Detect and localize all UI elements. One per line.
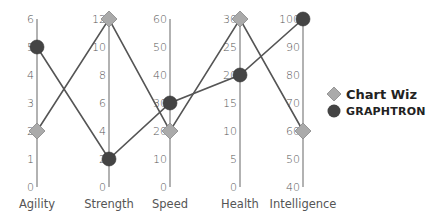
tick-label: 80	[286, 69, 300, 82]
tick-label: 0	[27, 181, 34, 194]
tick-label: 40	[153, 69, 167, 82]
tick-label: 4	[27, 69, 34, 82]
axis-label-speed: Speed	[152, 197, 188, 211]
tick-label: 5	[230, 153, 237, 166]
tick-label: 0	[99, 181, 106, 194]
circle-marker	[30, 40, 44, 54]
tick-label: 50	[286, 153, 300, 166]
tick-label: 4	[99, 125, 106, 138]
tick-label: 8	[99, 69, 106, 82]
tick-label: 0	[230, 181, 237, 194]
circle-marker	[163, 96, 177, 110]
circle-icon	[328, 105, 341, 118]
tick-label: 10	[153, 153, 167, 166]
tick-label: 60	[153, 13, 167, 26]
tick-label: 6	[99, 97, 106, 110]
circle-marker	[102, 152, 116, 166]
circle-marker	[296, 12, 310, 26]
tick-label: 6	[27, 13, 34, 26]
tick-label: 1	[27, 153, 34, 166]
axis-label-agility: Agility	[19, 197, 55, 211]
circle-marker	[233, 68, 247, 82]
legend-label-graphtron: GRAPHTRON	[346, 105, 426, 118]
tick-label: 10	[223, 125, 237, 138]
legend-label-chart-wiz: Chart Wiz	[346, 87, 417, 102]
diamond-icon	[327, 87, 341, 101]
tick-label: 50	[153, 41, 167, 54]
tick-label: 40	[286, 181, 300, 194]
axis-label-intelligence: Intelligence	[270, 197, 337, 211]
tick-label: 0	[160, 181, 167, 194]
tick-label: 15	[223, 97, 237, 110]
tick-label: 3	[27, 97, 34, 110]
tick-label: 90	[286, 41, 300, 54]
axis-label-strength: Strength	[84, 197, 134, 211]
legend: Chart WizGRAPHTRON	[327, 87, 426, 118]
axes-group: 0123456Agility024681012Strength010203040…	[19, 13, 337, 211]
axis-label-health: Health	[221, 197, 259, 211]
parallel-coordinates-chart: 0123456Agility024681012Strength010203040…	[0, 0, 431, 222]
